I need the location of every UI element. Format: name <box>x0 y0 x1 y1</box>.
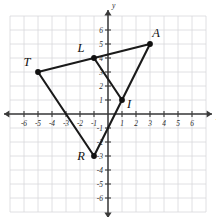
coordinate-plane-figure: -6-5-4-3-2-1123456-6-5-4-3-2-1123456 TLA… <box>0 0 216 217</box>
x-tick-label: -3 <box>63 119 69 128</box>
x-tick-label: -6 <box>21 119 27 128</box>
y-tick-label: 1 <box>99 96 103 105</box>
axis-arrowhead-up <box>104 10 111 15</box>
y-tick-label: -1 <box>97 124 103 133</box>
y-axis-label: y <box>111 1 116 10</box>
y-tick-label: -3 <box>97 152 103 161</box>
x-tick-label: 3 <box>147 119 152 128</box>
x-tick-label: 1 <box>120 119 124 128</box>
axis-arrowhead-down <box>104 213 111 217</box>
y-tick-label: -5 <box>97 180 103 189</box>
vertex-point-R <box>91 153 97 159</box>
y-tick-label: 5 <box>99 40 103 49</box>
axis-arrowhead-left <box>4 110 9 117</box>
vertex-point-A <box>147 41 153 47</box>
x-tick-label: 4 <box>162 119 166 128</box>
vertex-point-I <box>119 97 125 103</box>
axes <box>4 10 212 217</box>
y-tick-label: -6 <box>97 194 103 203</box>
axis-arrowhead-right <box>207 110 212 117</box>
point-label-R: R <box>76 149 85 163</box>
y-tick-label: -4 <box>97 166 103 175</box>
x-tick-label: 2 <box>134 119 138 128</box>
point-label-A: A <box>151 26 160 40</box>
point-label-I: I <box>126 97 132 111</box>
x-tick-label: -4 <box>49 119 55 128</box>
x-tick-label: -5 <box>35 119 41 128</box>
y-tick-label: 2 <box>99 82 103 91</box>
x-tick-label: -2 <box>77 119 83 128</box>
vertex-point-T <box>35 69 41 75</box>
x-tick-label: 5 <box>176 119 180 128</box>
vertex-point-L <box>91 55 97 61</box>
y-tick-label: 6 <box>99 26 103 35</box>
x-axis-label: x <box>215 113 216 122</box>
point-label-L: L <box>77 41 85 55</box>
coordinate-plane-svg: -6-5-4-3-2-1123456-6-5-4-3-2-1123456 TLA… <box>0 0 216 217</box>
x-tick-label: 6 <box>190 119 194 128</box>
point-label-T: T <box>24 55 32 69</box>
